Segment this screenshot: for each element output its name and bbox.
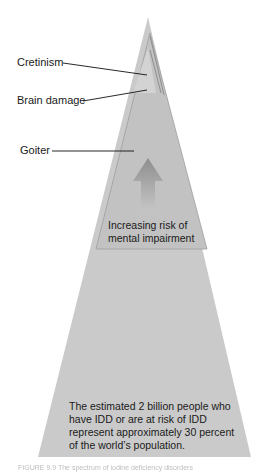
arrow-label-line-1: Increasing risk of bbox=[108, 219, 194, 232]
label-cretinism: Cretinism bbox=[17, 56, 63, 69]
label-brain-damage: Brain damage bbox=[17, 94, 86, 107]
arrow-label-line-2: mental impairment bbox=[108, 232, 194, 245]
arrow-label: Increasing risk of mental impairment bbox=[108, 219, 194, 245]
base-line-1: The estimated 2 billion people who bbox=[69, 400, 234, 413]
base-line-4: of the world’s population. bbox=[69, 439, 234, 452]
base-description: The estimated 2 billion people who have … bbox=[69, 400, 234, 452]
inner-impairment-zone bbox=[96, 33, 207, 249]
cretinism-leader bbox=[63, 63, 147, 75]
base-line-3: represent approximately 30 percent bbox=[69, 426, 234, 439]
label-goiter: Goiter bbox=[20, 144, 50, 157]
base-line-2: have IDD or are at risk of IDD bbox=[69, 413, 234, 426]
figure-caption: FIGURE 9.9 The spectrum of iodine defici… bbox=[18, 464, 193, 471]
